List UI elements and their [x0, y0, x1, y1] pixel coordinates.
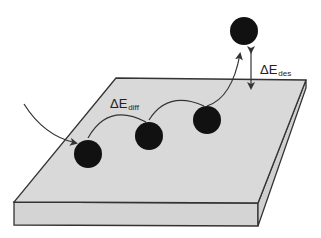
- adatom-icon: [135, 122, 163, 150]
- adatom-icon: [193, 106, 221, 134]
- diagram-svg: [0, 0, 321, 238]
- desorption-energy-label: ΔEdes: [260, 63, 291, 78]
- adatom-icon: [74, 140, 102, 168]
- desorption-energy-symbol: ΔE: [260, 62, 277, 77]
- diffusion-energy-label: ΔEdiff: [110, 97, 139, 112]
- diagram-canvas: ΔEdiff ΔEdes: [0, 0, 321, 238]
- desorbed-adatom-icon: [230, 17, 258, 45]
- diffusion-energy-subscript: diff: [128, 103, 139, 112]
- slab-front-face: [14, 202, 258, 226]
- desorption-energy-subscript: des: [278, 69, 291, 78]
- surface-slab: [14, 78, 306, 226]
- diffusion-energy-symbol: ΔE: [110, 96, 127, 111]
